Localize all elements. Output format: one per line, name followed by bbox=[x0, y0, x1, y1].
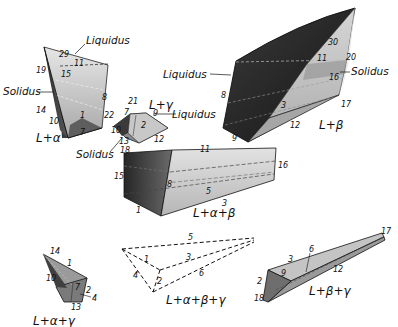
vertex-number: 20 bbox=[346, 53, 356, 62]
l-beta-gamma-region-label: L+β+γ bbox=[309, 284, 351, 298]
l-alpha-gamma-region-label: L+α+γ bbox=[33, 314, 76, 327]
vertex-number: 21 bbox=[128, 97, 138, 106]
vertex-number: 11 bbox=[317, 54, 327, 63]
vertex-number: 13 bbox=[71, 303, 81, 312]
piece-l-beta: Liquidus Solidus L+β 30 11 20 16 8 3 17 … bbox=[163, 8, 389, 143]
vertex-number: 5 bbox=[206, 187, 211, 196]
vertex-number: 1 bbox=[67, 259, 72, 268]
vertex-number: 29 bbox=[59, 50, 69, 59]
vertex-number: 15 bbox=[61, 70, 71, 79]
l-gamma-solidus-label: Solidus bbox=[76, 148, 114, 160]
l-beta-region-label: L+β bbox=[319, 118, 344, 132]
vertex-number: 10 bbox=[111, 126, 121, 135]
l-beta-liquidus-label: Liquidus bbox=[163, 68, 207, 80]
piece-l-alpha-beta: L+α+β 11 16 15 8 5 1 3 bbox=[114, 145, 288, 220]
vertex-number: 4 bbox=[133, 271, 138, 280]
vertex-number: 19 bbox=[36, 66, 46, 75]
vertex-number: 2 bbox=[257, 277, 262, 286]
vertex-number: 13 bbox=[119, 137, 129, 146]
vertex-number: 17 bbox=[381, 227, 392, 236]
vertex-number: 10 bbox=[46, 274, 56, 283]
piece-l-beta-gamma: L+β+γ 17 3 6 9 12 2 18 bbox=[254, 227, 392, 303]
piece-l-alpha-gamma: L+α+γ 14 1 10 7 2 4 13 bbox=[33, 247, 97, 327]
vertex-number: 3 bbox=[186, 253, 191, 262]
vertex-number: 2 bbox=[86, 286, 91, 295]
vertex-number: 30 bbox=[328, 38, 338, 47]
piece-l-alpha-beta-gamma bbox=[122, 238, 254, 292]
vertex-number: 10 bbox=[49, 117, 59, 126]
vertex-number: 14 bbox=[36, 106, 46, 115]
vertex-number: 9 bbox=[153, 109, 158, 118]
l-alpha-beta-region-label: L+α+β bbox=[193, 206, 236, 220]
vertex-number: 1 bbox=[144, 255, 149, 264]
vertex-number: 8 bbox=[167, 180, 172, 189]
vertex-number: 12 bbox=[333, 265, 343, 274]
vertex-number: 3 bbox=[222, 199, 227, 208]
l-alpha-liquidus-leader bbox=[75, 44, 85, 54]
vertex-number: 15 bbox=[114, 172, 124, 181]
vertex-number: 12 bbox=[290, 121, 300, 130]
vertex-number: 11 bbox=[74, 59, 84, 68]
l-alpha-liquidus-label: Liquidus bbox=[86, 34, 130, 46]
tetra-edge-1 bbox=[122, 249, 160, 270]
vertex-number: 3 bbox=[281, 101, 286, 110]
tetra-labels: L+α+β+γ 5 1 3 4 2 6 bbox=[133, 233, 226, 307]
l-alpha-solidus-label: Solidus bbox=[3, 85, 41, 97]
l-beta-solidus-label: Solidus bbox=[351, 65, 389, 77]
phase-diagram-figure: Liquidus Solidus L+α 29 11 19 15 8 14 10… bbox=[0, 0, 398, 327]
l-alpha-beta-gamma-region-label: L+α+β+γ bbox=[166, 293, 226, 307]
vertex-number: 6 bbox=[309, 245, 314, 254]
vertex-number: 9 bbox=[281, 269, 286, 278]
vertex-number: 3 bbox=[288, 255, 293, 264]
vertex-number: 8 bbox=[221, 91, 226, 100]
vertex-number: 1 bbox=[80, 111, 85, 120]
vertex-number: 8 bbox=[102, 93, 107, 102]
vertex-number: 16 bbox=[329, 73, 339, 82]
l-beta-liquidus-leader bbox=[210, 74, 231, 75]
vertex-number: 1 bbox=[136, 206, 141, 215]
vertex-number: 9 bbox=[232, 134, 237, 143]
vertex-number: 18 bbox=[254, 294, 264, 303]
vertex-number: 12 bbox=[154, 135, 164, 144]
vertex-number: 16 bbox=[278, 161, 288, 170]
vertex-number: 2 bbox=[141, 121, 146, 130]
vertex-number: 2 bbox=[157, 277, 162, 286]
vertex-number: 17 bbox=[341, 100, 352, 109]
vertex-number: 22 bbox=[104, 111, 114, 120]
vertex-number: 4 bbox=[92, 294, 97, 303]
vertex-number: 6 bbox=[199, 269, 204, 278]
vertex-number: 5 bbox=[188, 233, 193, 242]
l-gamma-liquidus-label: Liquidus bbox=[172, 108, 216, 120]
l-alpha-region-label: L+α bbox=[36, 131, 61, 145]
vertex-number: 14 bbox=[50, 247, 60, 256]
vertex-number: 11 bbox=[200, 145, 210, 154]
